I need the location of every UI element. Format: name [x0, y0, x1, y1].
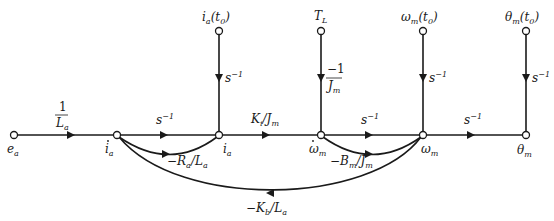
node-ia-t0 — [216, 28, 223, 35]
arrow-icon — [67, 131, 75, 139]
label-TL: TL — [314, 9, 327, 25]
label-thm: θm — [517, 143, 532, 159]
label-thm-t0: θm(t0) — [505, 10, 539, 26]
node-wm — [420, 132, 427, 139]
node-iadot — [114, 132, 121, 139]
gain-ia-wmdot: Ki/Jm — [250, 112, 279, 128]
gain-wm-iadot-fb: −Kb/La — [246, 201, 287, 217]
gain-iadot-ia: s−1 — [156, 112, 174, 127]
arrow-icon — [160, 131, 168, 139]
arrow-icon — [419, 74, 427, 82]
arrow-icon — [365, 131, 373, 139]
gain-thm-t0-thm: s−1 — [532, 70, 550, 85]
gain-TL-wmdot-den: Jm — [325, 79, 341, 95]
gain-ia-t0-ia: s−1 — [225, 70, 243, 85]
label-ea: ea — [7, 142, 19, 158]
node-thm — [523, 132, 530, 139]
label-ia-t0: ia(t0) — [202, 10, 230, 26]
arrow-icon — [215, 74, 223, 82]
node-thm-t0 — [523, 28, 530, 35]
arrow-icon — [365, 150, 373, 158]
gain-ea-iadot-num: 1 — [59, 100, 67, 114]
gain-ia-iadot-fb: −Ra/La — [167, 154, 208, 170]
signal-flow-graph: ea ia ia ωm ωm θm ia(t0) TL ωm(t0) θm(t0… — [0, 0, 554, 221]
gain-wmdot-wm: s−1 — [361, 112, 379, 127]
arrow-icon — [522, 74, 530, 82]
label-wm: ωm — [421, 142, 439, 158]
derivative-dot — [312, 140, 314, 142]
arrow-icon — [262, 131, 270, 139]
gain-TL-wmdot-num: −1 — [327, 62, 345, 76]
arrow-icon — [467, 131, 475, 139]
arrow-icon — [317, 74, 325, 82]
node-ea — [11, 132, 18, 139]
branch-wm-to-iadot-feedback — [119, 137, 421, 190]
node-ia — [216, 132, 223, 139]
node-TL — [318, 28, 325, 35]
node-wmdot — [318, 132, 325, 139]
node-wm-t0 — [420, 28, 427, 35]
label-wm-t0: ωm(t0) — [401, 10, 438, 26]
gain-wm-t0-wm: s−1 — [429, 70, 447, 85]
derivative-dot — [107, 140, 109, 142]
gain-ea-iadot-den: La — [55, 116, 69, 132]
gain-wm-thm: s−1 — [464, 112, 482, 127]
label-wmdot: ωm — [309, 142, 327, 158]
label-ia: ia — [223, 142, 232, 158]
label-iadot: ia — [105, 142, 114, 158]
